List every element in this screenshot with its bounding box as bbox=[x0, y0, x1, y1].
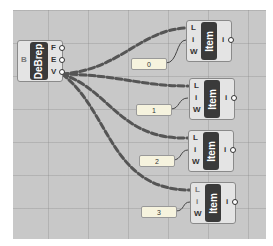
input-wrap: W bbox=[192, 157, 200, 166]
list-item-component-2[interactable]: L i W Item i bbox=[189, 78, 235, 120]
list-item-component-1[interactable]: L i W Item i bbox=[186, 20, 232, 62]
index-panel-3[interactable]: 3 bbox=[141, 206, 177, 218]
input-list: L bbox=[191, 23, 196, 32]
input-list: L bbox=[195, 185, 200, 194]
index-panel-1[interactable]: 1 bbox=[136, 104, 172, 116]
output-item: i bbox=[222, 35, 224, 44]
output-item: i bbox=[224, 145, 226, 154]
output-vertices: V bbox=[51, 67, 56, 76]
output-grip[interactable] bbox=[232, 199, 238, 205]
component-label: Item bbox=[201, 22, 217, 60]
deconstruct-brep-component[interactable]: B DeBrep F E V bbox=[17, 40, 63, 82]
output-grip-e[interactable] bbox=[59, 57, 65, 63]
output-grip[interactable] bbox=[230, 147, 236, 153]
input-wrap: W bbox=[193, 105, 201, 114]
wire-v-to-item4 bbox=[62, 74, 190, 190]
wire-panel3 bbox=[176, 202, 190, 211]
component-label: Item bbox=[203, 132, 219, 170]
output-grip[interactable] bbox=[228, 37, 234, 43]
input-index: i bbox=[195, 93, 197, 102]
input-brep: B bbox=[21, 55, 27, 64]
input-index: i bbox=[194, 145, 196, 154]
input-wrap: W bbox=[194, 209, 202, 218]
component-label: DeBrep bbox=[30, 42, 48, 80]
wire-panel2 bbox=[173, 150, 188, 160]
output-item: i bbox=[225, 93, 227, 102]
index-panel-0[interactable]: 0 bbox=[131, 58, 167, 70]
input-index: i bbox=[192, 35, 194, 44]
input-wrap: W bbox=[190, 47, 198, 56]
component-label: Item bbox=[204, 80, 220, 118]
output-edges: E bbox=[51, 55, 56, 64]
component-label: Item bbox=[205, 184, 221, 222]
output-grip-v[interactable] bbox=[59, 69, 65, 75]
output-grip-f[interactable] bbox=[59, 45, 65, 51]
index-panel-2[interactable]: 2 bbox=[139, 155, 175, 167]
input-index: i bbox=[196, 197, 198, 206]
input-list: L bbox=[194, 81, 199, 90]
output-faces: F bbox=[51, 43, 56, 52]
input-list: L bbox=[193, 133, 198, 142]
output-item: i bbox=[226, 197, 228, 206]
list-item-component-3[interactable]: L i W Item i bbox=[188, 130, 234, 172]
wire-panel0 bbox=[166, 40, 186, 63]
wire-v-to-item1 bbox=[62, 28, 186, 74]
list-item-component-4[interactable]: L i W Item i bbox=[190, 182, 236, 224]
wire-panel1 bbox=[171, 98, 188, 109]
output-grip[interactable] bbox=[231, 95, 237, 101]
